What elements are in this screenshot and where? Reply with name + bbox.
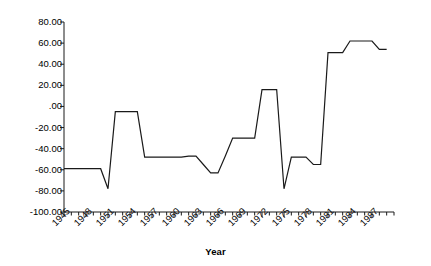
data-series — [64, 41, 387, 189]
chart-container: Political Ideology Year 80.0060.0040.002… — [0, 0, 431, 266]
plot-area — [0, 0, 431, 266]
series-line — [64, 41, 387, 189]
